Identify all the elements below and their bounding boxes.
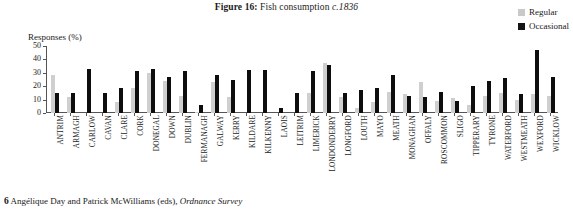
bar-occasional (55, 93, 59, 113)
bar-group (131, 46, 139, 113)
x-axis-label: LONDONDERRY (329, 115, 337, 172)
bar-group (483, 46, 491, 113)
x-axis-label: WEXFORD (537, 115, 545, 152)
bar-group (67, 46, 75, 113)
chart-legend: Regular Occasional (518, 5, 569, 33)
x-axis-label: TYRONE (489, 115, 497, 145)
bar-group (403, 46, 411, 113)
bar-group (275, 46, 283, 113)
bar-occasional (343, 93, 347, 113)
x-axis-label: CLARE (121, 115, 129, 140)
bar-occasional (135, 71, 139, 113)
bar-group (195, 46, 203, 113)
bar-occasional (311, 71, 315, 113)
x-axis-label: MAYO (377, 115, 385, 137)
x-axis-label: KERRY (233, 115, 241, 140)
bar-group (259, 46, 267, 113)
bar-occasional (215, 75, 219, 113)
bar-occasional (535, 50, 539, 113)
x-axis-label: WICKLOW (553, 115, 561, 152)
bar-occasional (119, 88, 123, 113)
x-axis-label: LAOIS (281, 115, 289, 137)
bar-group (99, 46, 107, 113)
y-axis-tick-label: 0 (27, 108, 41, 118)
x-axis-label: MEATH (393, 115, 401, 141)
figure-title-main: Fish consumption (260, 2, 329, 12)
bar-group (419, 46, 427, 113)
bar-group (179, 46, 187, 113)
bar-group (451, 46, 459, 113)
bar-occasional (183, 71, 187, 113)
bar-occasional (71, 93, 75, 113)
x-axis-label: LEITRIM (297, 115, 305, 146)
bar-occasional (391, 75, 395, 113)
bar-group (531, 46, 539, 113)
x-axis-label: ROSCOMMON (441, 115, 449, 164)
x-axis-label: ARMAGH (73, 115, 81, 148)
bar-group (387, 46, 395, 113)
y-axis-tick-label: 50 (27, 41, 41, 51)
bar-occasional (151, 69, 155, 113)
bar-group (163, 46, 171, 113)
bar-group (355, 46, 363, 113)
bar-occasional (551, 77, 555, 113)
bar-group (227, 46, 235, 113)
legend-label-regular: Regular (529, 5, 558, 19)
x-axis-label: OFFALY (425, 115, 433, 143)
bar-group (307, 46, 315, 113)
x-axis-label: MONAGHAN (409, 115, 417, 159)
bar-occasional (295, 93, 299, 113)
x-axis-label: LIMERICK (313, 115, 321, 151)
bar-occasional (103, 93, 107, 113)
bar-occasional (327, 65, 331, 113)
bar-group (243, 46, 251, 113)
x-axis-label: GALWAY (217, 115, 225, 146)
y-axis-tick-label: 40 (27, 54, 41, 64)
bar-group (371, 46, 379, 113)
bar-group (339, 46, 347, 113)
bar-occasional (455, 101, 459, 113)
square-swatch-icon (518, 9, 525, 16)
bar-group (499, 46, 507, 113)
square-swatch-icon (518, 23, 525, 30)
x-axis-label: TIPPERARY (473, 115, 481, 156)
x-axis-label: DONEGAL (153, 115, 161, 151)
x-axis-label: WESTMEATH (521, 115, 529, 161)
bar-occasional (87, 69, 91, 113)
legend-item-occasional: Occasional (518, 19, 569, 33)
figure-title-number: 16: (245, 2, 258, 12)
figure-title-citation: c.1836 (332, 2, 358, 12)
legend-item-regular: Regular (518, 5, 569, 19)
bar-group (291, 46, 299, 113)
y-axis-tick-label: 30 (27, 68, 41, 78)
bar-occasional (407, 96, 411, 113)
x-axis-label: LOUTH (361, 115, 369, 140)
bar-occasional (263, 70, 267, 113)
bar-occasional (423, 97, 427, 113)
bar-group (51, 46, 59, 113)
bar-group (115, 46, 123, 113)
bar-group (147, 46, 155, 113)
bar-group (515, 46, 523, 113)
bar-occasional (487, 81, 491, 113)
footnote: 6 Angélique Day and Patrick McWilliams (… (4, 196, 242, 206)
x-axis-label: KILKENNY (265, 115, 273, 154)
bar-occasional (167, 77, 171, 113)
bar-occasional (199, 105, 203, 113)
bar-occasional (471, 86, 475, 113)
bar-group (323, 46, 331, 113)
bar-occasional (279, 108, 283, 113)
bar-occasional (503, 78, 507, 113)
bar-occasional (231, 80, 235, 114)
x-axis-label: CORK (137, 115, 145, 136)
x-axis-label: ANTRIM (57, 115, 65, 145)
bar-group (83, 46, 91, 113)
chart-bars (46, 46, 558, 113)
x-axis-label: WATERFORD (505, 115, 513, 160)
x-axis-label: DUBLIN (185, 115, 193, 143)
x-axis-label: CAVAN (105, 115, 113, 140)
bar-group (435, 46, 443, 113)
y-axis-tick-label: 20 (27, 81, 41, 91)
x-axis-label: CARLOW (89, 115, 97, 147)
footnote-text: Angélique Day and Patrick McWilliams (ed… (11, 196, 178, 206)
